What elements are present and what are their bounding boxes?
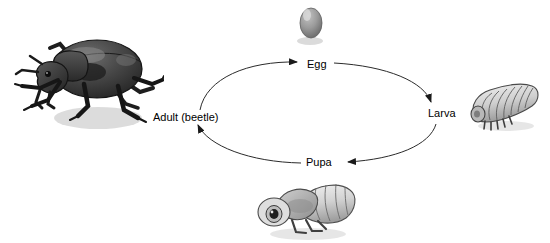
stage-label-larva: Larva [428, 108, 456, 119]
beetle-eye [45, 71, 51, 77]
egg-highlight [303, 9, 311, 21]
arrow-pupa-to-adult [198, 125, 301, 163]
beetle-rim-highlight [116, 54, 136, 66]
beetle-illustration [14, 22, 164, 144]
arrow-egg-to-larva [334, 63, 431, 102]
pupa-eye-glint [271, 211, 274, 214]
egg-body [300, 8, 322, 38]
arrow-larva-to-pupa [348, 124, 436, 162]
pupa-illustration [252, 176, 362, 242]
pupa-eye-pupil [270, 209, 279, 219]
beetle-eye-glint [46, 72, 48, 74]
pupa-shadow [270, 228, 346, 240]
beetle-antennae [16, 56, 42, 74]
pupa-wing-pad-shade [287, 199, 313, 213]
larva-illustration [466, 76, 544, 138]
arrow-adult-to-egg [200, 62, 297, 110]
life-cycle-diagram: Adult (beetle) Egg Larva Pupa [0, 0, 550, 243]
stage-label-pupa: Pupa [306, 157, 332, 168]
egg-illustration [288, 4, 336, 48]
stage-label-egg: Egg [307, 59, 327, 70]
larva-head-inner [474, 110, 480, 117]
